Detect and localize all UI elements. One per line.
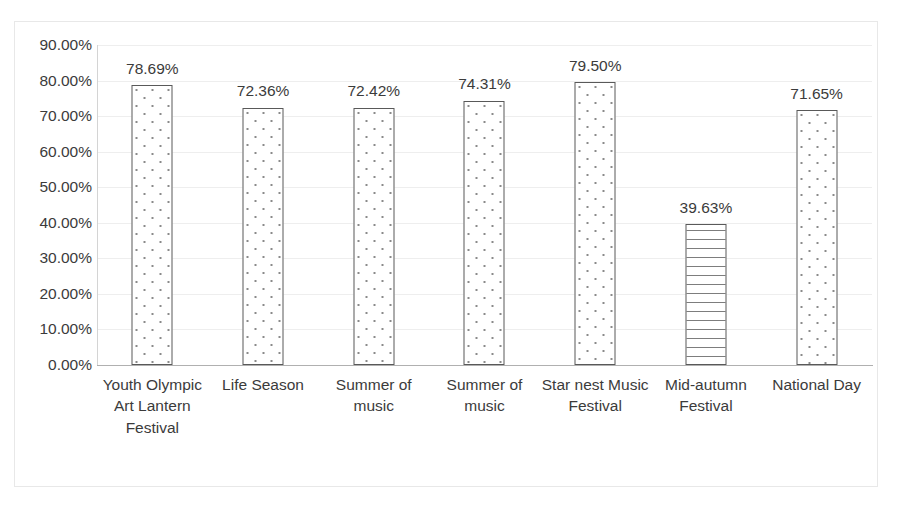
bar-slot: 39.63%	[651, 45, 762, 365]
y-axis-tick-label: 80.00%	[6, 73, 92, 89]
bar-slot: 74.31%	[429, 45, 540, 365]
chart-container: 90.00%80.00%70.00%60.00%50.00%40.00%30.0…	[0, 0, 907, 509]
bar-value-label: 72.42%	[347, 83, 400, 99]
y-axis-tick-label: 40.00%	[6, 215, 92, 231]
bar-value-label: 74.31%	[458, 76, 511, 92]
bar-slot: 72.36%	[208, 45, 319, 365]
bar-slot: 79.50%	[540, 45, 651, 365]
x-axis-category-label: Youth Olympic Art Lantern Festival	[97, 374, 208, 438]
bar[interactable]	[685, 224, 726, 365]
y-axis-tick-label: 70.00%	[6, 108, 92, 124]
bar[interactable]	[243, 108, 284, 365]
x-axis-category-label: Summer of music	[318, 374, 429, 417]
y-axis-line	[97, 45, 98, 366]
bar-value-label: 79.50%	[569, 58, 622, 74]
bar-value-label: 78.69%	[126, 61, 179, 77]
bar-slot: 78.69%	[97, 45, 208, 365]
bar[interactable]	[464, 101, 505, 365]
y-axis-tick-label: 30.00%	[6, 251, 92, 267]
y-axis-tick-labels: 90.00%80.00%70.00%60.00%50.00%40.00%30.0…	[0, 0, 92, 509]
bar[interactable]	[575, 82, 616, 365]
bar-value-label: 39.63%	[680, 200, 733, 216]
bar[interactable]	[796, 110, 837, 365]
x-axis-category-label: National Day	[761, 374, 872, 395]
y-axis-tick-label: 90.00%	[6, 37, 92, 53]
x-axis-category-label: Summer of music	[429, 374, 540, 417]
y-axis-tick-label: 50.00%	[6, 179, 92, 195]
x-axis-category-label: Life Season	[208, 374, 319, 395]
y-axis-tick-label: 0.00%	[6, 357, 92, 373]
x-axis-category-label: Mid-autumn Festival	[651, 374, 762, 417]
bar-slot: 71.65%	[761, 45, 872, 365]
plot-area: 78.69%72.36%72.42%74.31%79.50%39.63%71.6…	[97, 45, 872, 365]
bar-slot: 72.42%	[318, 45, 429, 365]
y-axis-tick-label: 20.00%	[6, 286, 92, 302]
bar[interactable]	[353, 108, 394, 365]
bar-value-label: 71.65%	[790, 86, 843, 102]
y-axis-tick-label: 10.00%	[6, 322, 92, 338]
x-axis-line	[97, 365, 873, 366]
bar[interactable]	[132, 85, 173, 365]
x-axis-category-labels: Youth Olympic Art Lantern FestivalLife S…	[97, 374, 872, 484]
y-axis-tick-label: 60.00%	[6, 144, 92, 160]
x-axis-category-label: Star nest Music Festival	[540, 374, 651, 417]
bar-value-label: 72.36%	[237, 83, 290, 99]
